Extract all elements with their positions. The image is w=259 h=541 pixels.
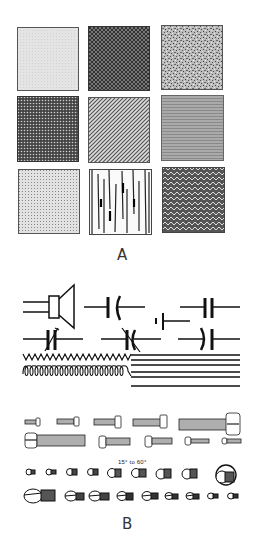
capacitor-fixed-icon	[180, 298, 240, 318]
variable-capacitor-icon	[23, 328, 83, 351]
resistor-zigzag-icon	[23, 354, 131, 360]
battery-icon	[156, 313, 190, 330]
panel-b-label: B	[122, 515, 132, 533]
capacitor-curved-2-icon	[178, 328, 240, 350]
speaker-icon	[23, 285, 74, 328]
trimmer-capacitor-icon	[101, 328, 161, 352]
capacitor-curved-icon	[84, 296, 145, 320]
symbols-drawing	[0, 0, 259, 400]
screws-head-view	[0, 465, 259, 510]
parallel-lines-icon	[131, 355, 240, 386]
inductor-coil-icon	[23, 366, 131, 376]
screws-side-view	[0, 400, 259, 460]
